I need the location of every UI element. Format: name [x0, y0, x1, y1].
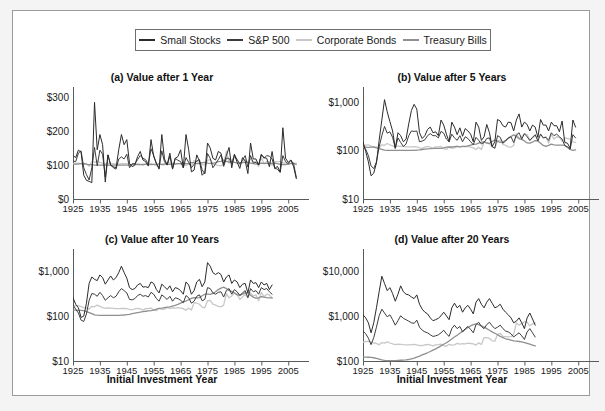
- xtick-label: 1945: [406, 203, 427, 214]
- ytick-label: $1,000: [328, 310, 359, 321]
- xtick-label: 2005: [278, 203, 299, 214]
- xtick-label: 2005: [568, 203, 589, 214]
- xtick-label: 1955: [433, 203, 454, 214]
- xtick-label: 1955: [143, 203, 164, 214]
- ytick-label: $1,000: [328, 96, 359, 107]
- series-line: [363, 322, 535, 347]
- ytick-label: $10,000: [323, 265, 359, 276]
- legend-label-small-stocks: Small Stocks: [160, 34, 221, 46]
- ytick-label: $1,000: [38, 265, 69, 276]
- panel-c-axis-title: Initial Investment Year: [19, 373, 305, 385]
- xtick-label: 1975: [197, 203, 218, 214]
- plot-svg: [73, 87, 311, 209]
- series-line: [73, 263, 272, 318]
- xtick-label: 1965: [170, 203, 191, 214]
- xtick-label: 1985: [514, 203, 535, 214]
- plot-svg: [73, 249, 311, 371]
- figure-frame: Small Stocks S&P 500 Corporate Bonds Tre…: [12, 10, 590, 396]
- ytick-label: $100: [47, 160, 69, 171]
- xtick-label: 1925: [62, 203, 83, 214]
- legend-item-corporate-bonds: Corporate Bonds: [296, 34, 396, 46]
- panel-c-title: (c) Value after 10 Years: [19, 233, 305, 245]
- xtick-label: 1925: [352, 203, 373, 214]
- legend-label-treasury-bills: Treasury Bills: [424, 34, 487, 46]
- panel-c-plot-area: [73, 249, 311, 371]
- legend-item-treasury-bills: Treasury Bills: [403, 34, 487, 46]
- legend-item-sp500: S&P 500: [227, 34, 289, 46]
- xtick-label: 1935: [89, 203, 110, 214]
- xtick-label: 1975: [487, 203, 508, 214]
- panel-a: (a) Value after 1 Year $0$100$200$300 19…: [19, 71, 305, 206]
- legend-label-corporate-bonds: Corporate Bonds: [317, 34, 396, 46]
- panel-a-title: (a) Value after 1 Year: [19, 71, 305, 83]
- panel-a-plot-area: [73, 87, 311, 209]
- panel-d-axis-title: Initial Investment Year: [309, 373, 595, 385]
- legend-swatch-treasury-bills: [403, 39, 419, 41]
- xtick-label: 1965: [460, 203, 481, 214]
- panel-d-title: (d) Value after 20 Years: [309, 233, 595, 245]
- legend-label-sp500: S&P 500: [248, 34, 289, 46]
- panel-d-plot-area: [363, 249, 601, 371]
- figure-root: Small Stocks S&P 500 Corporate Bonds Tre…: [0, 0, 605, 411]
- chart-legend: Small Stocks S&P 500 Corporate Bonds Tre…: [135, 29, 491, 51]
- panel-b-title: (b) Value after 5 Years: [309, 71, 595, 83]
- xtick-label: 1935: [379, 203, 400, 214]
- ytick-label: $300: [47, 92, 69, 103]
- xtick-label: 1995: [251, 203, 272, 214]
- ytick-label: $100: [47, 310, 69, 321]
- ytick-label: $100: [337, 145, 359, 156]
- xtick-label: 1995: [541, 203, 562, 214]
- legend-item-small-stocks: Small Stocks: [139, 34, 221, 46]
- panel-b-plot-area: [363, 87, 601, 209]
- plot-svg: [363, 87, 601, 209]
- legend-swatch-corporate-bonds: [296, 39, 312, 41]
- xtick-label: 1945: [116, 203, 137, 214]
- ytick-label: $200: [47, 126, 69, 137]
- series-line: [363, 276, 535, 333]
- panel-b: (b) Value after 5 Years $10$100$1,000 19…: [309, 71, 595, 206]
- legend-swatch-sp500: [227, 39, 243, 41]
- xtick-label: 1985: [224, 203, 245, 214]
- series-line: [73, 288, 272, 322]
- plot-svg: [363, 249, 601, 371]
- series-line: [73, 102, 296, 182]
- panel-d: (d) Value after 20 Years $100$1,000$10,0…: [309, 233, 595, 391]
- legend-swatch-small-stocks: [139, 39, 155, 41]
- panel-c: (c) Value after 10 Years $10$100$1,000 1…: [19, 233, 305, 391]
